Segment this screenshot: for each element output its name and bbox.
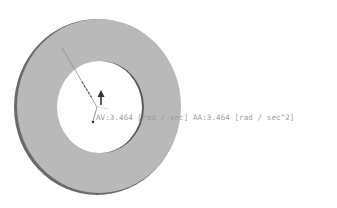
motion-annotation-label: AV:3.464 [rad / sec] AA:3.464 [rad / sec… <box>96 113 294 122</box>
label-anchor-dot <box>92 121 94 123</box>
model-viewport[interactable] <box>0 0 337 208</box>
angular-velocity-text: AV:3.464 [rad / sec] <box>96 113 188 122</box>
ring-inner-hole <box>57 61 142 153</box>
angular-acceleration-text: AA:3.464 [rad / sec^2] <box>193 113 295 122</box>
